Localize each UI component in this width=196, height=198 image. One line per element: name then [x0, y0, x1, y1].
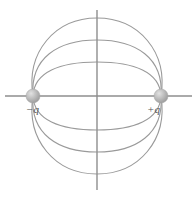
dipole-field-figure: −q +q [0, 0, 196, 198]
positive-charge-sphere [154, 89, 168, 103]
positive-charge-label: +q [147, 104, 160, 115]
field-lines-diagram [0, 0, 196, 198]
negative-charge-sphere [26, 89, 40, 103]
negative-charge-label: −q [26, 104, 39, 115]
